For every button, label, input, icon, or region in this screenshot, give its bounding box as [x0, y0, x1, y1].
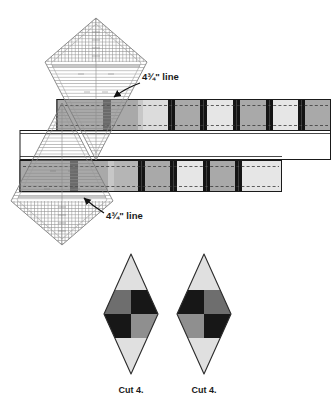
diamond-left-cut-label: Cut 4. [118, 385, 143, 395]
diamond-right-cut-label: Cut 4. [191, 385, 216, 395]
pattern-diagram-page: 4¾" line 4¾" line Cut 4. [0, 0, 331, 409]
cutting-diagram-svg: 4¾" line 4¾" line Cut 4. [0, 0, 331, 409]
label-4-3-4-line-top: 4¾" line [142, 71, 179, 82]
label-4-3-4-line-bottom: 4¾" line [106, 210, 143, 221]
